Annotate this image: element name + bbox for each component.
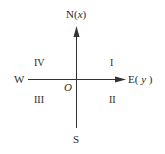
quadrant-i-label: I xyxy=(110,58,113,68)
north-letter: N xyxy=(66,8,74,20)
north-arrow-icon xyxy=(74,26,80,37)
west-label: W xyxy=(14,74,24,85)
quadrant-iii-label: III xyxy=(34,95,44,105)
quadrant-ii-label: II xyxy=(109,95,116,105)
east-var: y xyxy=(141,73,146,85)
quadrant-iv-label: IV xyxy=(34,58,45,68)
east-letter: E xyxy=(128,73,135,85)
east-arrow-icon xyxy=(115,77,126,83)
north-var: x xyxy=(78,8,83,20)
south-label: S xyxy=(73,134,79,145)
coordinate-diagram: N(x) W E( y ) S O IV I III II xyxy=(0,0,165,154)
east-label: E( y ) xyxy=(128,74,152,85)
origin-label: O xyxy=(64,82,72,93)
north-label: N(x) xyxy=(66,9,86,20)
